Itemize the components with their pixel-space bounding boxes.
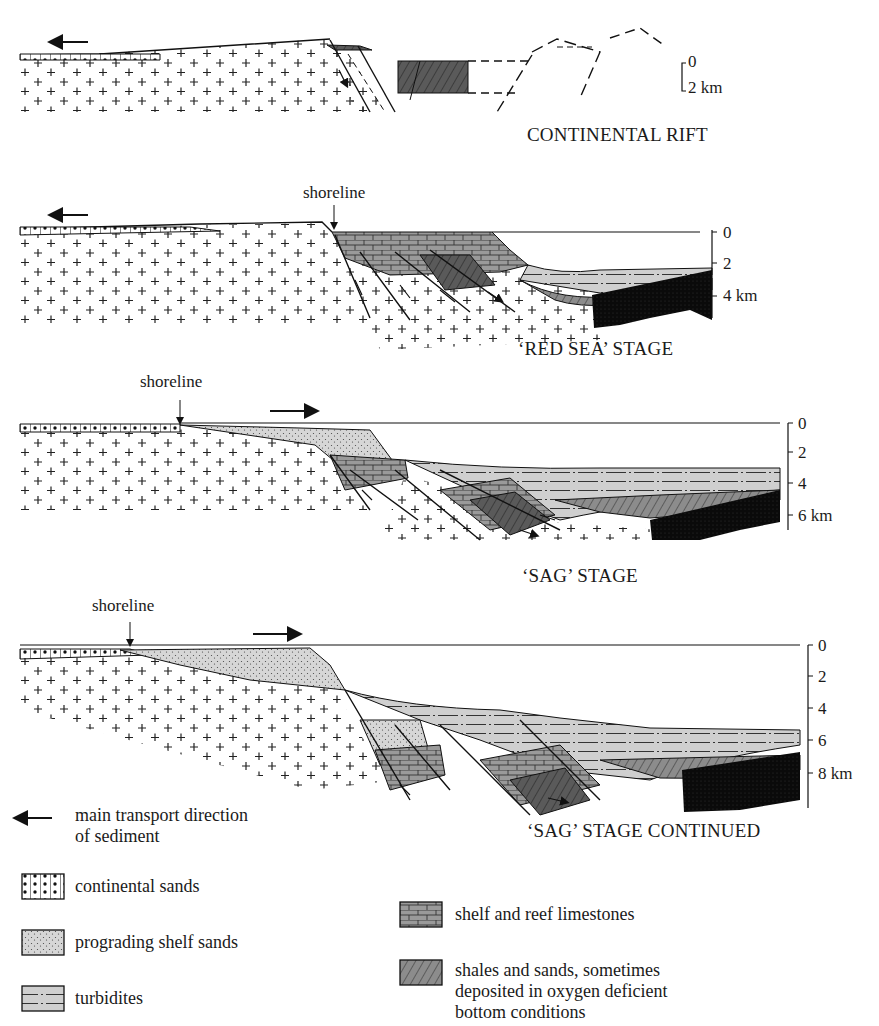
legend-turbidites: turbidites (75, 988, 143, 1009)
axis-tick-0: 0 (723, 223, 732, 243)
legend-limestones: shelf and reef limestones (455, 904, 634, 925)
axis-tick-0: 0 (818, 636, 827, 656)
axis-tick-2: 2 (818, 667, 827, 687)
scale-label-0: 0 (688, 52, 697, 72)
legend-continental-sands: continental sands (75, 876, 199, 897)
axis-tick-2: 2 (798, 443, 807, 463)
legend-shales-line3: bottom conditions (455, 1002, 586, 1023)
panel-title-continental-rift: CONTINENTAL RIFT (527, 124, 708, 146)
panel-sag-stage (20, 400, 793, 540)
shoreline-label: shoreline (140, 372, 202, 392)
legend-shales-line2: deposited in oxygen deficient (455, 981, 667, 1002)
axis-tick-6km: 6 km (798, 506, 832, 526)
panel-sag-stage-continued (20, 622, 813, 815)
axis-tick-8km: 8 km (818, 764, 852, 784)
prograding-shelf-sands-pattern-icon (22, 930, 64, 955)
panel-title-red-sea: ‘RED SEA’ STAGE (518, 338, 673, 360)
legend-arrow-line1: main transport direction (75, 805, 248, 826)
legend-arrow-line2: of sediment (75, 826, 159, 847)
panel-title-sag: ‘SAG’ STAGE (522, 565, 638, 587)
shoreline-label: shoreline (92, 596, 154, 616)
panel-title-sag-continued: ‘SAG’ STAGE CONTINUED (527, 820, 760, 842)
shoreline-label: shoreline (303, 183, 365, 203)
panel-red-sea-stage (20, 205, 717, 350)
continental-sands-pattern-icon (22, 874, 64, 899)
legend-shales-line1: shales and sands, sometimes (455, 960, 660, 981)
axis-tick-0: 0 (798, 414, 807, 434)
limestone-pattern-icon (400, 902, 442, 927)
shales-pattern-icon (400, 960, 442, 985)
turbidites-pattern-icon (22, 986, 64, 1011)
axis-tick-4: 4 (798, 474, 807, 494)
cross-section-diagram (0, 0, 879, 1026)
axis-tick-2: 2 (723, 254, 732, 274)
panel-continental-rift (20, 28, 686, 112)
axis-tick-4: 4 (818, 699, 827, 719)
scale-label-2km: 2 km (688, 78, 722, 98)
axis-tick-4km: 4 km (723, 286, 757, 306)
axis-tick-6: 6 (818, 731, 827, 751)
legend-prograding-shelf-sands: prograding shelf sands (75, 932, 238, 953)
